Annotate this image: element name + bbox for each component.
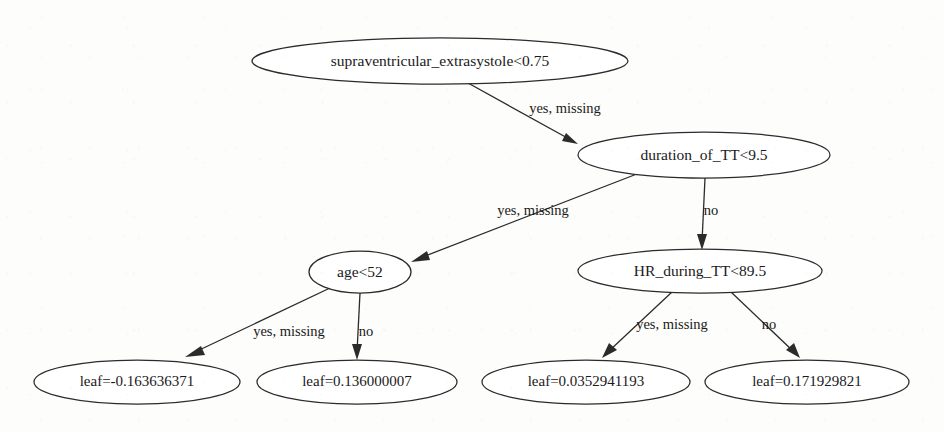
arrow-head-duration-age <box>411 251 430 262</box>
tree-graphic: yes, missing yes, missing no yes, missin… <box>0 0 944 432</box>
node-leaf-b[interactable]: leaf=0.136000007 <box>257 360 457 404</box>
node-age[interactable]: age<52 <box>309 251 411 293</box>
node-label-leaf-a: leaf=-0.163636371 <box>80 373 195 389</box>
edge-label-hr-leaf-c: yes, missing <box>636 316 708 332</box>
edge-line-age-leaf-a <box>193 288 330 353</box>
node-label-duration: duration_of_TT<9.5 <box>640 146 767 163</box>
node-duration-of-tt[interactable]: duration_of_TT<9.5 <box>578 132 830 178</box>
edge-label-hr-leaf-d: no <box>762 316 777 332</box>
arrow-head-duration-hr <box>697 234 707 250</box>
node-label-leaf-d: leaf=0.171929821 <box>752 373 862 389</box>
edge-label-duration-hr: no <box>704 202 719 218</box>
node-leaf-c[interactable]: leaf=0.0352941193 <box>482 360 690 404</box>
edge-label-root-duration: yes, missing <box>529 100 601 116</box>
arrow-head-hr-leaf-d <box>786 343 800 358</box>
decision-tree-diagram: yes, missing yes, missing no yes, missin… <box>0 0 944 432</box>
node-root[interactable]: supraventricular_extrasystole<0.75 <box>252 38 628 84</box>
node-hr-during-tt[interactable]: HR_during_TT<89.5 <box>578 249 822 293</box>
edge-label-age-leaf-a: yes, missing <box>253 323 325 339</box>
node-leaf-a[interactable]: leaf=-0.163636371 <box>34 360 240 404</box>
arrow-head-root-duration <box>562 133 578 144</box>
node-label-age: age<52 <box>337 263 383 280</box>
node-label-hr: HR_during_TT<89.5 <box>634 262 767 279</box>
node-label-leaf-b: leaf=0.136000007 <box>302 373 412 389</box>
edge-label-age-leaf-b: no <box>359 323 374 339</box>
edge-label-duration-age: yes, missing <box>497 202 569 218</box>
node-group: supraventricular_extrasystole<0.75 durat… <box>34 38 909 404</box>
node-label-root: supraventricular_extrasystole<0.75 <box>331 52 550 69</box>
node-leaf-d[interactable]: leaf=0.171929821 <box>705 360 909 404</box>
arrow-head-age-leaf-a <box>185 346 205 357</box>
node-label-leaf-c: leaf=0.0352941193 <box>528 373 645 389</box>
arrow-head-age-leaf-b <box>352 344 362 360</box>
